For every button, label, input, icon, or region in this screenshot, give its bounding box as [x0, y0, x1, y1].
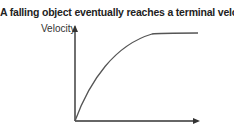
y-axis-arrow-icon — [72, 25, 78, 32]
velocity-graph — [0, 0, 234, 127]
x-axis-arrow-icon — [193, 118, 200, 124]
velocity-curve — [75, 33, 198, 121]
